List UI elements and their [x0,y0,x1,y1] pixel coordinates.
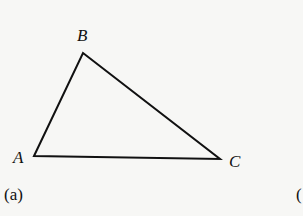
figure-caption: (a) [4,186,23,203]
triangle-abc [0,0,303,216]
vertex-label-a: A [13,149,23,166]
triangle-outline [34,53,220,159]
vertex-label-b: B [77,27,87,44]
vertex-label-c: C [229,153,240,170]
next-figure-caption-partial: ( [296,186,302,203]
